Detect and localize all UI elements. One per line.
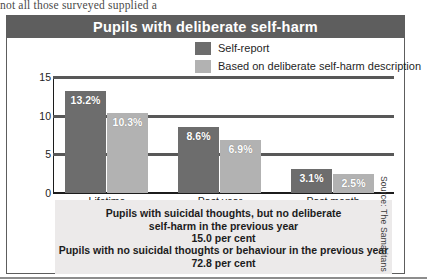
y-tick-10: 10 <box>39 110 51 122</box>
bar-description-past-year: 6.9% <box>220 140 261 193</box>
bar-group-container: 13.2% 10.3% 8.6% 6.9% 3.1% 2.5% <box>54 77 394 193</box>
footer-note-value: 72.8 per cent <box>55 257 392 270</box>
newspaper-column-fragment: not all those surveyed supplied a <box>0 0 240 11</box>
bar-description-past-month: 2.5% <box>333 174 374 193</box>
y-tick-0: 0 <box>45 187 51 199</box>
bar-self-report-past-year: 8.6% <box>178 127 219 194</box>
bar-description-lifetime: 10.3% <box>107 113 148 193</box>
bar-value-label: 2.5% <box>333 177 374 189</box>
bar-value-label: 3.1% <box>291 172 332 184</box>
bar-value-label: 8.6% <box>178 130 219 142</box>
footer-callout-panel: Pupils with suicidal thoughts, but no de… <box>55 200 392 274</box>
plot-area: 15 10 5 0 13.2% 10.3% 8.6% <box>7 38 404 188</box>
y-tick-5: 5 <box>45 148 51 160</box>
footer-note-no-suicidal-thoughts: Pupils with no suicidal thoughts or beha… <box>55 244 392 269</box>
chart-title-bar: Pupils with deliberate self-harm <box>7 16 404 38</box>
footer-note-line1: Pupils with no suicidal thoughts or beha… <box>55 244 392 257</box>
bar-value-label: 6.9% <box>220 143 261 155</box>
bar-value-label: 10.3% <box>107 116 148 128</box>
chart-title: Pupils with deliberate self-harm <box>7 19 404 35</box>
footer-note-value: 15.0 per cent <box>55 232 392 245</box>
y-axis: 15 10 5 0 <box>29 38 51 188</box>
source-credit: Source: The Samaritans <box>379 176 389 272</box>
footer-note-suicidal-thoughts: Pupils with suicidal thoughts, but no de… <box>55 207 392 245</box>
chart-card: Pupils with deliberate self-harm Self-re… <box>6 15 405 274</box>
footer-note-line1: Pupils with suicidal thoughts, but no de… <box>55 207 392 220</box>
bar-value-label: 13.2% <box>65 94 106 106</box>
y-tick-15: 15 <box>39 71 51 83</box>
bar-self-report-lifetime: 13.2% <box>65 91 106 193</box>
bar-self-report-past-month: 3.1% <box>291 169 332 193</box>
footer-note-line2: self-harm in the previous year <box>55 220 392 233</box>
